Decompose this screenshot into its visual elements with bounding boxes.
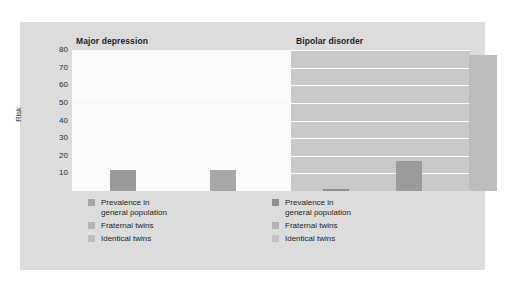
bar-major-depression-0	[110, 170, 136, 191]
y-axis-label: Risk	[14, 107, 23, 122]
gridline-30	[72, 138, 291, 139]
legend-item: Identical twins	[272, 234, 351, 244]
gridline-80	[291, 50, 470, 51]
legend-item: Prevalence in general population	[272, 198, 351, 218]
y-tick-70: 70	[59, 64, 68, 72]
gridline-60	[72, 85, 291, 86]
bar-bipolar-disorder-0	[323, 189, 349, 191]
legend-item-label: Fraternal twins	[285, 221, 337, 231]
legend-swatch-icon	[88, 235, 95, 242]
chart-figure: Major depression Bipolar disorder 807060…	[20, 22, 485, 270]
panel-title-bipolar-disorder: Bipolar disorder	[296, 36, 363, 46]
bar-bipolar-disorder-1	[396, 161, 422, 191]
legend-item-label: Prevalence in general population	[285, 198, 351, 218]
gridline-30	[291, 138, 470, 139]
y-tick-40: 40	[59, 117, 68, 125]
plot-panel-bipolar-disorder	[291, 50, 470, 191]
legend-major-depression: Prevalence in general populationFraterna…	[88, 198, 167, 247]
legend-swatch-icon	[272, 199, 279, 206]
gridline-50	[291, 103, 470, 104]
gridline-20	[72, 156, 291, 157]
gridline-20	[291, 156, 470, 157]
legend-item: Fraternal twins	[272, 221, 351, 231]
gridline-10	[72, 173, 291, 174]
legend-item: Fraternal twins	[88, 221, 167, 231]
bar-bipolar-disorder-2	[469, 55, 497, 191]
bar-major-depression-1	[210, 170, 236, 191]
gridline-70	[291, 68, 470, 69]
y-tick-30: 30	[59, 134, 68, 142]
legend-bipolar-disorder: Prevalence in general populationFraterna…	[272, 198, 351, 247]
y-tick-80: 80	[59, 46, 68, 54]
legend-swatch-icon	[88, 222, 95, 229]
legend-swatch-icon	[272, 235, 279, 242]
gridline-50	[72, 103, 291, 104]
legend-swatch-icon	[88, 199, 95, 206]
gridline-80	[72, 50, 291, 51]
legend-item: Identical twins	[88, 234, 167, 244]
y-tick-50: 50	[59, 99, 68, 107]
legend-item-label: Identical twins	[285, 234, 335, 244]
gridline-40	[72, 121, 291, 122]
y-tick-10: 10	[59, 169, 68, 177]
plot-panel-major-depression	[72, 50, 291, 191]
y-tick-20: 20	[59, 152, 68, 160]
y-axis-ticks: 8070605040302010	[42, 50, 68, 191]
legend-item-label: Identical twins	[101, 234, 151, 244]
gridline-40	[291, 121, 470, 122]
legend-swatch-icon	[272, 222, 279, 229]
gridline-70	[72, 68, 291, 69]
gridline-10	[291, 173, 470, 174]
legend-item: Prevalence in general population	[88, 198, 167, 218]
legend-item-label: Fraternal twins	[101, 221, 153, 231]
legend-item-label: Prevalence in general population	[101, 198, 167, 218]
gridline-60	[291, 85, 470, 86]
y-tick-60: 60	[59, 81, 68, 89]
panel-title-major-depression: Major depression	[76, 36, 148, 46]
